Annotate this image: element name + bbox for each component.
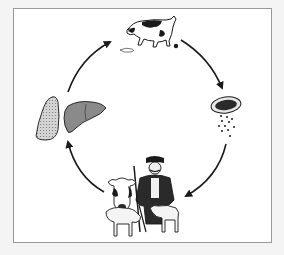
arrow-dog-to-egg (181, 40, 222, 88)
sheep-icon (106, 208, 141, 237)
arrow-organs-to-dog (68, 42, 110, 92)
dog-icon (120, 16, 178, 52)
eggs-dots-icon (218, 115, 235, 137)
proglottid-egg-icon (210, 95, 242, 137)
arrow-egg-to-hosts (186, 144, 226, 196)
organs-icon (36, 97, 106, 140)
arrow-hosts-to-organs (68, 142, 104, 192)
lung-icon (36, 97, 59, 140)
life-cycle-diagram (0, 0, 284, 255)
intermediate-hosts-icon (106, 156, 179, 236)
cow-icon (108, 178, 136, 212)
